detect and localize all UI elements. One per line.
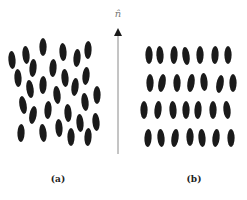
panel-b-smectic-molecules xyxy=(140,46,236,148)
molecule-ellipse xyxy=(22,46,31,65)
molecule-ellipse xyxy=(39,38,46,56)
molecule-ellipse xyxy=(55,119,63,137)
molecule-ellipse xyxy=(194,101,202,119)
molecule-ellipse xyxy=(181,47,191,66)
molecule-ellipse xyxy=(211,46,219,64)
molecule-ellipse xyxy=(169,101,177,119)
molecule-ellipse xyxy=(38,124,47,143)
molecule-ellipse xyxy=(25,80,35,99)
molecule-ellipse xyxy=(157,129,166,148)
molecule-ellipse xyxy=(84,41,92,59)
molecule-ellipse xyxy=(154,101,163,120)
molecule-ellipse xyxy=(80,93,89,112)
director-label: n̂ xyxy=(115,8,121,19)
molecule-ellipse xyxy=(156,46,164,64)
molecule-ellipse xyxy=(186,74,196,93)
molecule-ellipse xyxy=(67,128,74,146)
molecule-ellipse xyxy=(146,74,153,92)
molecule-ellipse xyxy=(144,129,152,147)
molecule-ellipse xyxy=(182,101,189,119)
molecule-ellipse xyxy=(39,76,47,94)
molecule-ellipse xyxy=(82,67,91,86)
molecule-ellipse xyxy=(8,51,16,69)
molecule-ellipse xyxy=(145,46,152,64)
molecule-ellipse xyxy=(93,86,100,104)
caption-a: (a) xyxy=(51,174,65,184)
molecule-ellipse xyxy=(84,128,92,146)
molecule-ellipse xyxy=(73,49,81,67)
molecule-ellipse xyxy=(215,75,225,94)
molecule-ellipse xyxy=(211,129,220,148)
molecule-ellipse xyxy=(200,73,208,91)
molecule-ellipse xyxy=(92,113,101,132)
molecule-ellipse xyxy=(170,129,180,148)
caption-b: (b) xyxy=(187,174,202,184)
molecule-ellipse xyxy=(222,101,231,120)
molecule-ellipse xyxy=(157,74,167,93)
molecule-ellipse xyxy=(229,74,236,92)
molecule-ellipse xyxy=(44,101,52,119)
molecule-ellipse xyxy=(224,46,231,64)
molecule-ellipse xyxy=(186,128,193,146)
molecule-ellipse xyxy=(170,46,178,64)
molecule-ellipse xyxy=(29,59,37,77)
molecule-ellipse xyxy=(49,59,57,77)
molecule-ellipse xyxy=(173,74,180,92)
molecule-ellipse xyxy=(209,101,216,119)
molecule-ellipse xyxy=(140,101,147,119)
molecule-ellipse xyxy=(198,129,206,147)
panel-a-nematic-molecules xyxy=(8,38,101,146)
molecule-ellipse xyxy=(59,43,67,61)
figure-canvas xyxy=(0,0,247,200)
molecule-ellipse xyxy=(76,114,84,132)
molecule-ellipse xyxy=(52,86,61,105)
liquid-crystal-figure: n̂ (a) (b) xyxy=(0,0,247,200)
molecule-ellipse xyxy=(70,78,79,97)
molecule-ellipse xyxy=(28,106,38,125)
director-arrow-icon xyxy=(114,28,122,154)
molecule-ellipse xyxy=(17,124,25,142)
molecule-ellipse xyxy=(64,104,72,122)
molecule-ellipse xyxy=(14,69,22,87)
molecule-ellipse xyxy=(227,129,234,147)
molecule-ellipse xyxy=(61,69,69,87)
molecule-ellipse xyxy=(196,46,203,64)
molecule-ellipse xyxy=(18,96,28,115)
